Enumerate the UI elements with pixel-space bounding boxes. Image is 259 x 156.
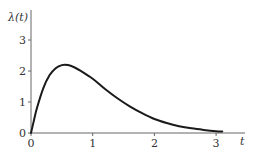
x-tick-label: 2: [151, 137, 158, 150]
y-axis-label: λ(t): [7, 11, 28, 24]
y-tick-label: 1: [19, 96, 26, 109]
line-chart: 0123 λ(t) 0123 t: [0, 0, 259, 156]
x-tick-label: 3: [213, 137, 220, 150]
y-axis: 0123 λ(t): [7, 10, 31, 140]
x-axis: 0123 t: [28, 133, 246, 150]
x-tick-label: 0: [28, 137, 35, 150]
lambda-curve: [31, 65, 222, 133]
y-tick-label: 0: [19, 127, 26, 140]
x-axis-label: t: [240, 135, 245, 148]
x-tick-label: 1: [89, 137, 96, 150]
y-tick-label: 3: [19, 34, 26, 47]
y-tick-label: 2: [19, 65, 26, 78]
